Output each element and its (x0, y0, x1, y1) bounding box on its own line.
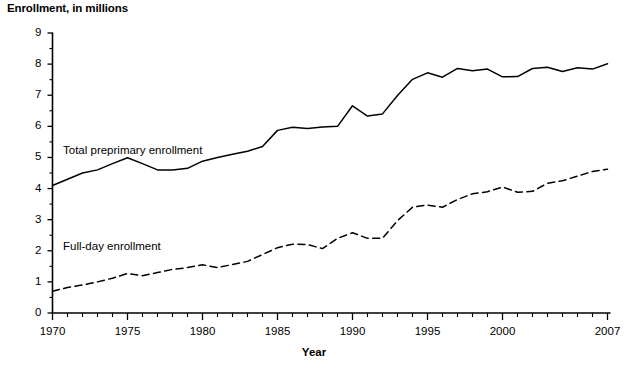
y-axis-tick-label: 6 (20, 120, 42, 132)
y-axis-tick-label: 0 (20, 307, 42, 319)
chart-axes (48, 33, 611, 321)
x-axis-tick-label: 2000 (480, 326, 526, 338)
y-axis-tick-label: 5 (20, 151, 42, 163)
x-axis-tick-label: 1985 (255, 326, 301, 338)
series-line-1 (53, 169, 608, 291)
x-axis-tick-label: 2007 (585, 326, 628, 338)
enrollment-chart: Enrollment, in millions 0123456789 19701… (0, 0, 628, 370)
series-line-0 (53, 64, 608, 186)
y-axis-tick-label: 4 (20, 183, 42, 195)
y-axis-tick-label: 8 (20, 58, 42, 70)
series-label-0: Total preprimary enrollment (63, 144, 202, 156)
series-label-1: Full-day enrollment (63, 240, 161, 252)
x-axis-title: Year (0, 346, 628, 358)
chart-plot-area (0, 0, 628, 370)
y-axis-tick-label: 1 (20, 276, 42, 288)
chart-series (53, 64, 608, 291)
x-axis-tick-label: 1970 (30, 326, 76, 338)
y-axis-tick-label: 2 (20, 245, 42, 257)
y-axis-tick-label: 7 (20, 89, 42, 101)
x-axis-tick-label: 1990 (330, 326, 376, 338)
x-axis-tick-label: 1995 (405, 326, 451, 338)
y-axis-tick-label: 3 (20, 214, 42, 226)
y-axis-tick-label: 9 (20, 27, 42, 39)
x-axis-tick-label: 1975 (105, 326, 151, 338)
x-axis-tick-label: 1980 (180, 326, 226, 338)
